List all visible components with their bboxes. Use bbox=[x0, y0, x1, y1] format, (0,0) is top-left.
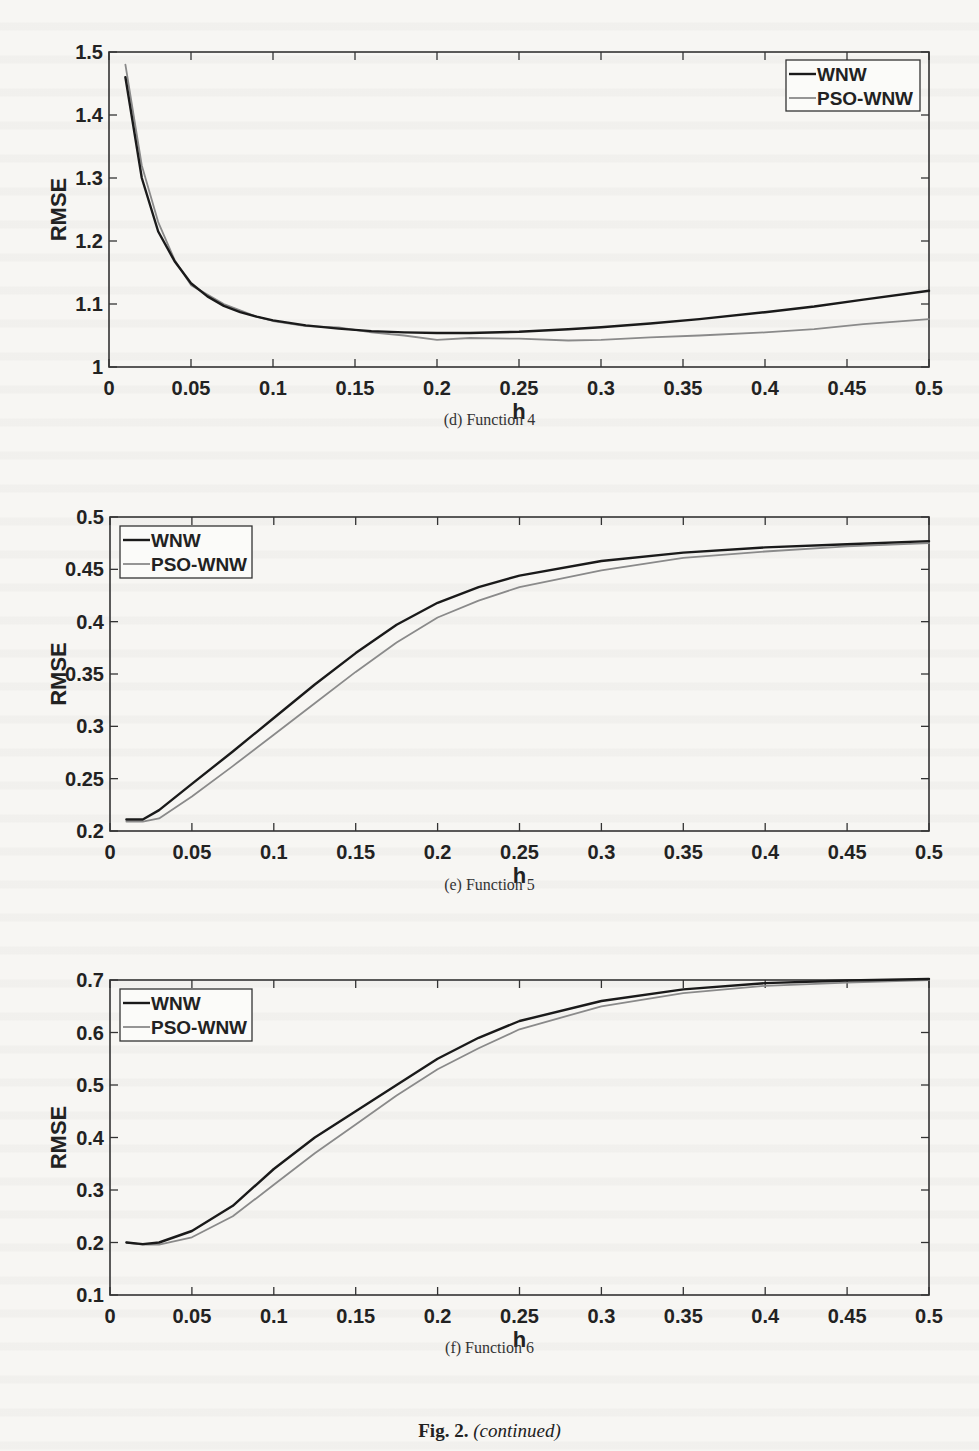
x-tick-label: 0.05 bbox=[172, 1305, 211, 1327]
x-tick-label: 0.25 bbox=[500, 1305, 539, 1327]
x-tick-label: 0.45 bbox=[828, 1305, 867, 1327]
line-chart-function-6: 00.050.10.150.20.250.30.350.40.450.50.10… bbox=[0, 0, 979, 1360]
legend-label-wnw: WNW bbox=[151, 993, 201, 1014]
y-tick-label: 0.4 bbox=[76, 1127, 105, 1149]
x-tick-label: 0.1 bbox=[260, 1305, 288, 1327]
figure-caption: Fig. 2. (continued) bbox=[0, 1420, 979, 1442]
y-tick-label: 0.2 bbox=[76, 1232, 104, 1254]
figure-note: (continued) bbox=[473, 1420, 561, 1441]
y-tick-label: 0.6 bbox=[76, 1022, 104, 1044]
x-tick-label: 0.5 bbox=[915, 1305, 943, 1327]
x-tick-label: 0 bbox=[104, 1305, 115, 1327]
x-tick-label: 0.2 bbox=[424, 1305, 452, 1327]
x-tick-label: 0.4 bbox=[751, 1305, 780, 1327]
figure-label: Fig. 2. bbox=[418, 1420, 468, 1441]
legend-label-pso-wnw: PSO-WNW bbox=[151, 1017, 247, 1038]
legend: WNWPSO-WNW bbox=[120, 989, 252, 1041]
x-tick-label: 0.15 bbox=[336, 1305, 375, 1327]
subfigure-caption: (f) Function 6 bbox=[0, 1339, 979, 1357]
x-tick-label: 0.3 bbox=[587, 1305, 615, 1327]
x-tick-label: 0.35 bbox=[664, 1305, 703, 1327]
y-tick-label: 0.3 bbox=[76, 1179, 104, 1201]
y-tick-label: 0.1 bbox=[76, 1284, 104, 1306]
y-tick-label: 0.7 bbox=[76, 969, 104, 991]
y-tick-label: 0.5 bbox=[76, 1074, 104, 1096]
y-axis-label: RMSE bbox=[46, 1106, 71, 1170]
